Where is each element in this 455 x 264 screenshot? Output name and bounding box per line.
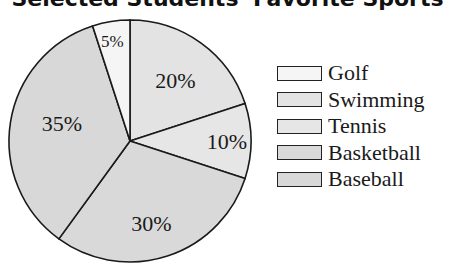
legend-label: Baseball <box>328 169 404 189</box>
legend-label: Swimming <box>328 90 425 110</box>
legend-label: Tennis <box>328 116 386 136</box>
legend-item-golf: Golf <box>277 63 368 83</box>
slice-label-basketball: 30% <box>131 211 171 236</box>
legend-swatch <box>277 172 322 187</box>
legend-swatch <box>277 119 322 134</box>
slice-label-golf: 5% <box>101 32 124 51</box>
legend-item-basketball: Basketball <box>277 143 421 163</box>
slice-label-swimming: 20% <box>155 68 195 93</box>
legend-swatch <box>277 66 322 81</box>
slice-label-tennis: 10% <box>207 129 247 154</box>
legend-label: Basketball <box>328 143 421 163</box>
legend-swatch <box>277 145 322 160</box>
legend-item-tennis: Tennis <box>277 116 386 136</box>
legend-label: Golf <box>328 63 368 83</box>
legend-item-baseball: Baseball <box>277 169 404 189</box>
pie-chart: 20%10%30%35%5% <box>0 0 455 264</box>
legend-item-swimming: Swimming <box>277 90 425 110</box>
legend-swatch <box>277 92 322 107</box>
slice-label-baseball: 35% <box>42 111 82 136</box>
